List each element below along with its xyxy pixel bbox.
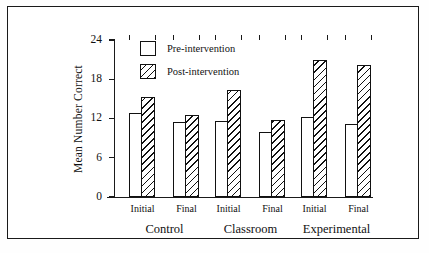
- legend-item: Pre-intervention: [140, 38, 239, 58]
- y-axis-title: Mean Number Correct: [70, 40, 86, 197]
- x-axis-line: [107, 197, 373, 198]
- figure-canvas: Mean Number Correct 06121824 InitialFina…: [0, 0, 429, 253]
- chart-legend: Pre-interventionPost-intervention: [140, 38, 239, 84]
- y-tick: 18: [109, 79, 115, 80]
- x-tick: [301, 35, 302, 40]
- y-tick: 0: [109, 196, 115, 197]
- x-tick: [371, 35, 372, 40]
- legend-label: Post-intervention: [167, 66, 239, 77]
- y-tick: 24: [109, 39, 115, 40]
- bar-post-intervention: [227, 90, 241, 197]
- x-axis-group-label: Classroom: [224, 222, 277, 237]
- y-axis-title-text: Mean Number Correct: [72, 65, 84, 173]
- x-tick: [285, 35, 286, 40]
- y-tick: 6: [109, 157, 115, 158]
- legend-swatch-hatched-icon: [140, 64, 156, 79]
- legend-label: Pre-intervention: [167, 43, 235, 54]
- x-tick: [259, 35, 260, 40]
- x-tick: [129, 35, 130, 40]
- x-axis-condition-label: Final: [176, 203, 197, 214]
- legend-swatch-solid-icon: [140, 41, 156, 56]
- x-axis-group-label: Experimental: [303, 222, 370, 237]
- y-tick-label: 0: [96, 191, 102, 203]
- y-tick-label: 24: [91, 34, 103, 46]
- x-axis-condition-label: Initial: [217, 203, 241, 214]
- x-axis-condition-label: Initial: [303, 203, 327, 214]
- bar-post-intervention: [141, 97, 155, 197]
- bar-post-intervention: [357, 65, 371, 197]
- y-tick-label: 18: [91, 73, 103, 85]
- x-axis-group-label: Control: [145, 222, 183, 237]
- y-tick-label: 12: [91, 113, 103, 125]
- legend-item: Post-intervention: [140, 61, 239, 81]
- bar-post-intervention: [185, 115, 199, 197]
- x-tick: [241, 35, 242, 40]
- x-tick: [345, 35, 346, 40]
- bar-post-intervention: [313, 60, 327, 197]
- y-tick: 12: [109, 118, 115, 119]
- x-axis-condition-label: Final: [262, 203, 283, 214]
- figure-border: Mean Number Correct 06121824 InitialFina…: [7, 6, 419, 239]
- bar-post-intervention: [271, 120, 285, 197]
- x-tick: [327, 35, 328, 40]
- y-tick-label: 6: [96, 152, 102, 164]
- x-axis-condition-label: Initial: [131, 203, 155, 214]
- x-axis-condition-label: Final: [348, 203, 369, 214]
